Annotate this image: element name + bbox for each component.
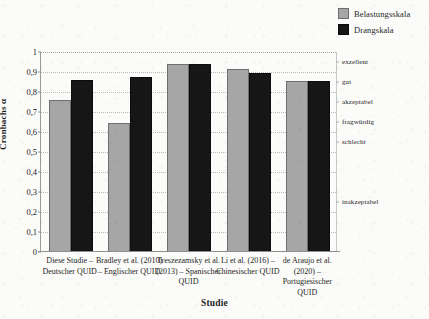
- bar-belastungsskala: [167, 64, 189, 252]
- secondary-axis-label: schlecht: [336, 138, 366, 146]
- legend-item: Belastungsskala: [338, 8, 410, 19]
- bar-drangskala: [249, 73, 271, 252]
- plot-area: 00,10,20,30,40,50,60,70,80,91 exzellentg…: [40, 52, 337, 252]
- x-axis-line: [38, 251, 340, 252]
- bar-group: [100, 52, 159, 252]
- bar-group: [219, 52, 278, 252]
- x-axis-category-label: Diese Studie – Deutscher QUID: [36, 256, 103, 277]
- legend-label: Drangskala: [354, 25, 394, 35]
- bar-group: [160, 52, 219, 252]
- bar-belastungsskala: [108, 123, 130, 252]
- secondary-axis-label: fragwürdig: [336, 118, 374, 126]
- bar-group: [279, 52, 338, 252]
- x-axis-title: Studie: [0, 298, 429, 308]
- x-axis-category-label: Li et al. (2016) – Chinesischer QUID: [214, 256, 281, 277]
- legend-item: Drangskala: [338, 24, 410, 35]
- bar-drangskala: [189, 64, 211, 252]
- chart-legend: Belastungsskala Drangskala: [338, 8, 410, 40]
- x-axis-category-label: Treszezamsky et al. (2013) – Spanischer …: [155, 256, 222, 288]
- secondary-axis-label: akzeptabel: [336, 98, 373, 106]
- secondary-axis-label: exzellent: [336, 58, 368, 66]
- bar-belastungsskala: [227, 69, 249, 252]
- y-axis-title: Cronbachs α: [0, 99, 8, 150]
- bar-group: [41, 52, 100, 252]
- x-axis-category-label: de Araujo et al. (2020) – Portugiesische…: [274, 256, 341, 298]
- bar-belastungsskala: [286, 81, 308, 252]
- legend-swatch-drangskala: [338, 24, 349, 35]
- legend-label: Belastungsskala: [354, 9, 410, 19]
- x-axis-category-label: Bradley et al. (2010) – Englischer QUID: [95, 256, 162, 277]
- bar-belastungsskala: [49, 100, 71, 252]
- bar-series-container: [41, 52, 336, 252]
- bar-drangskala: [71, 80, 93, 252]
- bar-drangskala: [130, 77, 152, 252]
- secondary-axis-label: inakzeptabel: [336, 198, 379, 206]
- bar-drangskala: [308, 81, 330, 252]
- legend-swatch-belastungsskala: [338, 8, 349, 19]
